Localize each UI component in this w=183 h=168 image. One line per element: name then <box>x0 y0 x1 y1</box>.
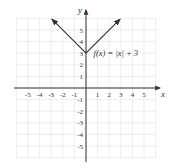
svg-text:-4: -4 <box>77 131 83 139</box>
svg-text:5: 5 <box>142 91 146 99</box>
svg-text:2: 2 <box>107 91 111 99</box>
svg-text:-5: -5 <box>77 143 83 151</box>
svg-text:3: 3 <box>119 91 123 99</box>
svg-text:4: 4 <box>131 91 135 99</box>
function-label: f(x) = |x| + 3 <box>94 48 138 58</box>
y-axis-label: y <box>77 5 82 15</box>
coordinate-plane: -5-4-3-2-112345-5-4-3-2-112345 x y f(x) … <box>0 0 183 168</box>
svg-text:2: 2 <box>80 61 84 69</box>
svg-text:-2: -2 <box>77 108 83 116</box>
svg-text:-1: -1 <box>77 96 83 104</box>
axes <box>14 10 160 162</box>
svg-text:-5: -5 <box>25 91 31 99</box>
svg-text:1: 1 <box>80 73 84 81</box>
svg-text:1: 1 <box>96 91 100 99</box>
svg-text:-3: -3 <box>77 119 83 127</box>
svg-text:4: 4 <box>80 38 84 46</box>
svg-text:-4: -4 <box>37 91 43 99</box>
svg-text:-2: -2 <box>60 91 66 99</box>
svg-text:5: 5 <box>80 27 84 35</box>
svg-text:-3: -3 <box>48 91 54 99</box>
x-axis-label: x <box>160 89 165 99</box>
